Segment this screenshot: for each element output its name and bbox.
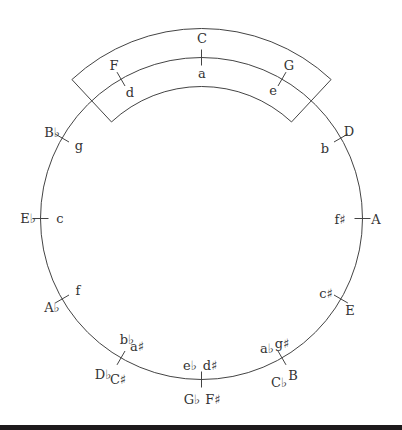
- label-major-E: E: [345, 303, 355, 318]
- key-circle: [41, 58, 363, 380]
- label-minor-csharp: c♯: [319, 286, 333, 301]
- label-minor-aflat: a♭: [260, 341, 274, 356]
- label-minor-dsharp: d♯: [203, 358, 218, 373]
- tick-150: [278, 351, 286, 365]
- label-major-Gflat: G♭: [184, 392, 201, 407]
- label-minor-d: d: [126, 85, 134, 100]
- label-minor-g: g: [75, 138, 83, 153]
- label-minor-f: f: [76, 283, 82, 298]
- bottom-bar: [0, 425, 402, 430]
- label-major-Fsharp: F♯: [205, 392, 220, 407]
- circle-of-fifths-diagram: C a G e D b A f♯ E c♯ B C♭ g♯ a♭ G♭ F♯ e…: [0, 0, 402, 430]
- label-major-A: A: [370, 212, 381, 227]
- label-minor-eflat: e♭: [183, 358, 197, 373]
- label-major-Cflat: C♭: [271, 375, 287, 390]
- label-major-G: G: [284, 58, 294, 73]
- tick-330: [117, 72, 125, 86]
- label-minor-a: a: [198, 66, 206, 81]
- label-minor-gsharp: g♯: [275, 336, 290, 351]
- label-major-Bflat: B♭: [44, 125, 60, 140]
- label-major-B: B: [288, 368, 298, 383]
- tick-30: [278, 72, 286, 86]
- label-minor-c: c: [56, 211, 63, 226]
- label-major-Csharp: C♯: [110, 372, 126, 387]
- label-major-Dflat: D♭: [95, 367, 112, 382]
- label-major-Aflat: A♭: [43, 300, 60, 315]
- tick-120: [334, 295, 348, 303]
- label-major-F: F: [109, 58, 118, 73]
- label-minor-asharp: a♯: [130, 339, 144, 354]
- key-labels: C a G e D b A f♯ E c♯ B C♭ g♯ a♭ G♭ F♯ e…: [20, 31, 381, 407]
- label-minor-b: b: [321, 141, 329, 156]
- label-major-Eflat: E♭: [20, 211, 36, 226]
- label-minor-e: e: [269, 83, 277, 98]
- label-minor-fsharp: f♯: [334, 212, 345, 227]
- tick-210: [117, 351, 125, 365]
- label-major-C: C: [197, 31, 207, 46]
- label-major-D: D: [344, 124, 354, 139]
- key-ticks: [33, 50, 371, 388]
